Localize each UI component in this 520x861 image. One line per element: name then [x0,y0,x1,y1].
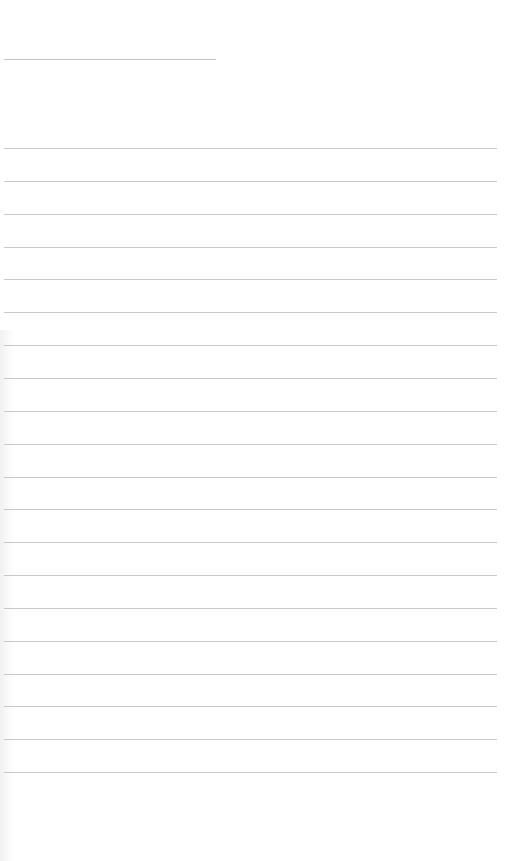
ruled-line [4,608,497,609]
title-line [4,59,216,60]
ruled-line [4,706,497,707]
page-edge-shadow [0,330,14,861]
ruled-line [4,772,497,773]
ruled-line [4,378,497,379]
ruled-line [4,279,497,280]
ruled-line [4,181,497,182]
ruled-line [4,477,497,478]
ruled-line [4,148,497,149]
ruled-line [4,411,497,412]
ruled-line [4,509,497,510]
ruled-line [4,444,497,445]
ruled-line [4,542,497,543]
ruled-line [4,214,497,215]
ruled-paper-page [0,0,520,861]
ruled-line [4,674,497,675]
ruled-line [4,641,497,642]
ruled-line [4,247,497,248]
ruled-line [4,575,497,576]
ruled-line [4,312,497,313]
ruled-line [4,345,497,346]
ruled-line [4,739,497,740]
